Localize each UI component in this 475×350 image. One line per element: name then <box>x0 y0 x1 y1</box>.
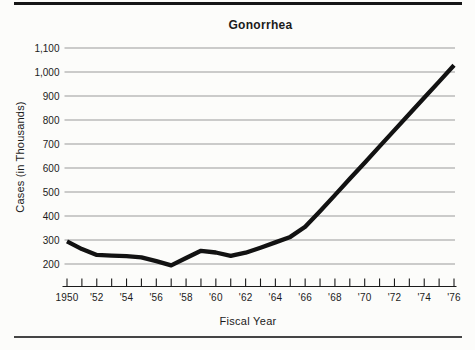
y-tick-label: 1,100 <box>34 43 59 54</box>
y-tick-label: 400 <box>43 211 60 222</box>
y-tick-label: 300 <box>43 235 60 246</box>
y-tick-label: 200 <box>43 259 60 270</box>
y-tick-label: 1,000 <box>34 67 59 78</box>
x-tick-label: '72 <box>388 292 402 303</box>
x-axis-title: Fiscal Year <box>67 315 429 327</box>
x-tick-label: '60 <box>209 292 223 303</box>
x-tick-label: '68 <box>328 292 342 303</box>
x-tick-label: '76 <box>447 292 461 303</box>
x-tick-label: 1950 <box>55 292 78 303</box>
x-tick-label: '54 <box>120 292 134 303</box>
figure: Gonorrhea Cases (in Thousands) 1,1001,00… <box>0 0 475 350</box>
data-line <box>67 65 454 265</box>
x-tick-label: '62 <box>239 292 253 303</box>
x-tick-label: '74 <box>417 292 431 303</box>
x-tick-label: '64 <box>269 292 283 303</box>
line-chart-canvas: 1,1001,0009008007006005004003002001950'5… <box>0 0 475 350</box>
y-tick-label: 600 <box>43 163 60 174</box>
x-tick-label: '70 <box>358 292 372 303</box>
y-tick-label: 700 <box>43 139 60 150</box>
x-tick-label: '56 <box>149 292 163 303</box>
y-tick-label: 500 <box>43 187 60 198</box>
x-tick-label: '52 <box>90 292 104 303</box>
bottom-rule <box>14 336 462 338</box>
x-tick-label: '66 <box>298 292 312 303</box>
y-tick-label: 900 <box>43 91 60 102</box>
y-tick-label: 800 <box>43 115 60 126</box>
x-tick-label: '58 <box>179 292 193 303</box>
